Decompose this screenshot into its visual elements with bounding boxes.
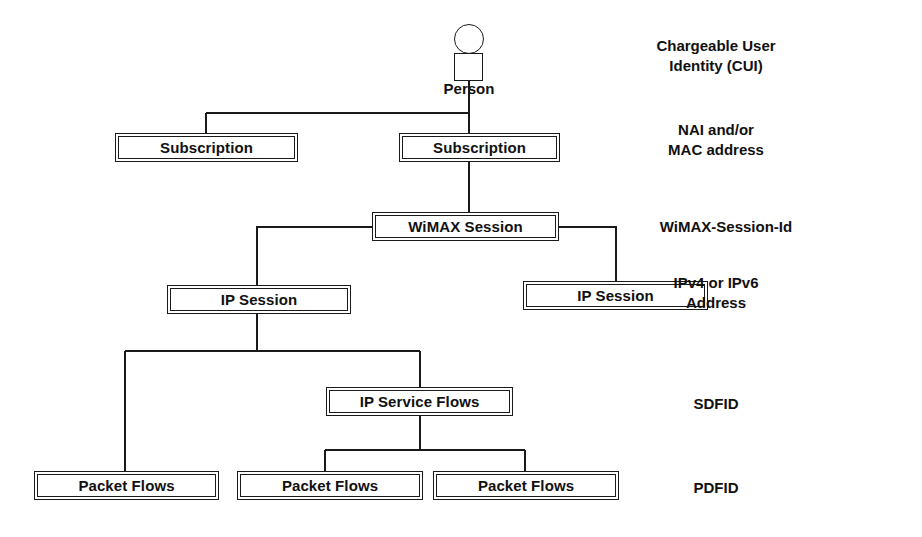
node-label: WiMAX Session — [408, 218, 523, 235]
node-label: IP Session — [221, 291, 298, 308]
side-label-nai-mac: NAI and/or MAC address — [626, 120, 806, 160]
node-label: Packet Flows — [478, 477, 574, 494]
node-box: IP Service Flows — [329, 390, 510, 413]
node-label: Packet Flows — [282, 477, 378, 494]
node-wimax-session[interactable]: WiMAX Session — [372, 212, 559, 241]
node-box: Subscription — [118, 136, 295, 159]
node-packet-flows-2[interactable]: Packet Flows — [237, 471, 423, 500]
side-label-pdfid: PDFID — [626, 478, 806, 498]
node-ip-service-flows[interactable]: IP Service Flows — [326, 387, 513, 416]
person-body-icon — [454, 53, 483, 81]
side-label-wimax-session-id: WiMAX-Session-Id — [626, 217, 826, 237]
person-head-icon — [454, 24, 484, 54]
node-packet-flows-3[interactable]: Packet Flows — [433, 471, 619, 500]
side-label-ip-address: IPv4 or IPv6 Address — [626, 273, 806, 313]
node-label: Subscription — [160, 139, 253, 156]
side-label-cui: Chargeable User Identity (CUI) — [626, 36, 806, 76]
node-box: Packet Flows — [240, 474, 420, 497]
diagram-canvas: Person Subscription Subscription WiMAX S… — [0, 0, 922, 537]
node-subscription-left[interactable]: Subscription — [115, 133, 298, 162]
node-ip-session-left[interactable]: IP Session — [167, 285, 351, 314]
node-box: Subscription — [402, 136, 557, 159]
node-label: Subscription — [433, 139, 526, 156]
node-box: WiMAX Session — [375, 215, 556, 238]
node-box: Packet Flows — [436, 474, 616, 497]
side-label-sdfid: SDFID — [626, 394, 806, 414]
person-label: Person — [419, 80, 519, 97]
node-packet-flows-1[interactable]: Packet Flows — [34, 471, 219, 500]
edge-wimax-to-ip-session-left — [257, 227, 372, 285]
edge-wimax-to-ip-session-right — [559, 227, 616, 281]
node-box: Packet Flows — [37, 474, 216, 497]
node-label: IP Service Flows — [360, 393, 480, 410]
node-subscription-right[interactable]: Subscription — [399, 133, 560, 162]
node-box: IP Session — [170, 288, 348, 311]
node-label: Packet Flows — [78, 477, 174, 494]
